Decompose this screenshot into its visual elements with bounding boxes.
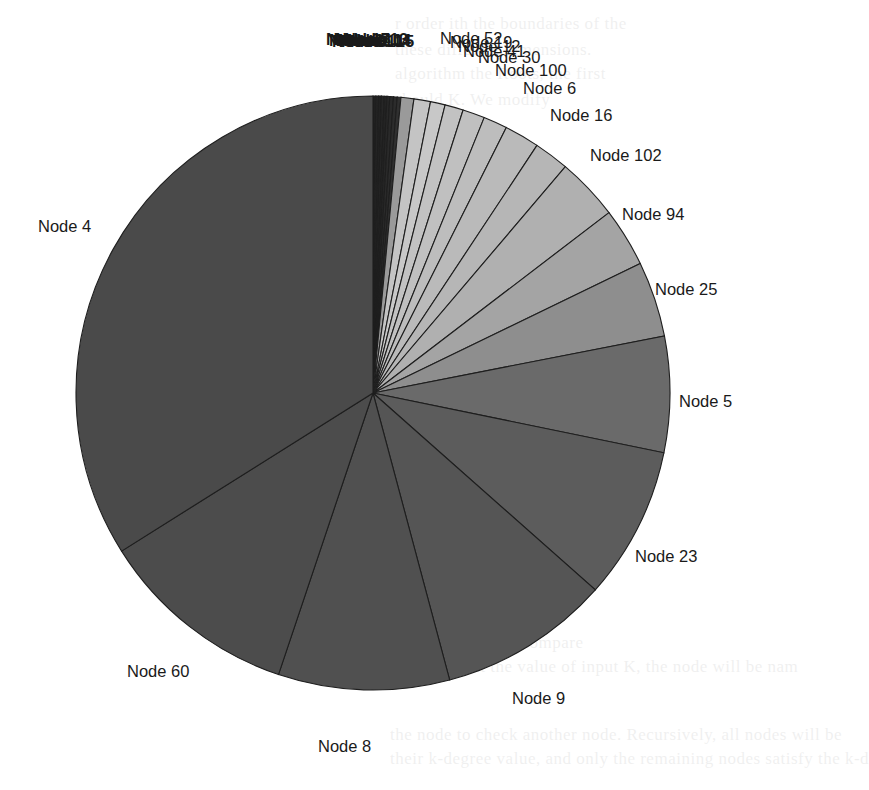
slice-label: Node 4 (38, 217, 91, 235)
slice-label: Node 6 (523, 79, 576, 97)
slice-label: Node 94 (622, 205, 684, 223)
slice-label-overlapping: Node 15 (350, 32, 414, 50)
slice-label: Node 16 (550, 106, 612, 124)
slice-label: Node 23 (635, 547, 697, 565)
slice-label: Node 9 (512, 689, 565, 707)
pie-slices (76, 96, 670, 690)
slice-label: Node 5 (679, 392, 732, 410)
slice-label: Node 102 (590, 146, 662, 164)
slice-label: Node 8 (318, 737, 371, 755)
slice-label: Node 60 (127, 662, 189, 680)
slice-label: Node 100 (495, 61, 567, 79)
slice-label: Node 25 (655, 280, 717, 298)
